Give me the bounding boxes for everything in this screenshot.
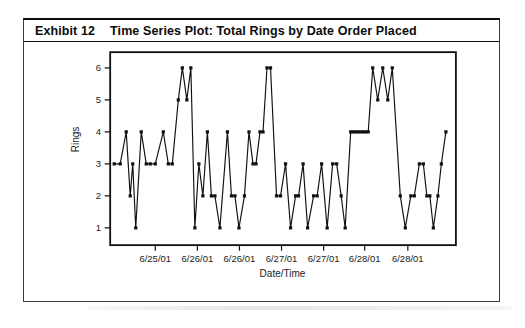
data-point <box>301 162 304 165</box>
y-tick-label: 4 <box>96 126 102 137</box>
data-point <box>436 194 439 197</box>
exhibit-header: Exhibit 12 Time Series Plot: Total Rings… <box>24 20 499 42</box>
data-point <box>425 194 428 197</box>
y-tick-label: 2 <box>96 190 101 201</box>
y-tick-label: 3 <box>96 158 101 169</box>
data-point <box>162 130 165 133</box>
data-point <box>422 162 425 165</box>
data-point <box>306 226 309 229</box>
data-point <box>193 226 196 229</box>
data-point <box>206 130 209 133</box>
data-point <box>125 130 128 133</box>
x-tick-label: 6/27/01 <box>266 253 298 264</box>
data-point <box>331 162 334 165</box>
data-point <box>418 162 421 165</box>
data-point <box>154 162 157 165</box>
x-tick-label: 6/26/01 <box>181 253 213 264</box>
data-point <box>261 130 264 133</box>
data-point <box>399 194 402 197</box>
data-point <box>269 66 272 69</box>
data-point <box>197 162 200 165</box>
data-point <box>404 226 407 229</box>
data-point <box>386 98 389 101</box>
x-tick-label: 6/28/01 <box>349 253 381 264</box>
x-axis-label: Date/Time <box>110 268 455 279</box>
y-tick-label: 1 <box>96 222 101 233</box>
data-point <box>226 130 229 133</box>
data-point <box>316 194 319 197</box>
data-point <box>409 194 412 197</box>
data-point <box>428 194 431 197</box>
data-point <box>233 194 236 197</box>
data-point <box>326 226 329 229</box>
data-point <box>258 130 261 133</box>
data-point <box>254 162 257 165</box>
data-point <box>284 162 287 165</box>
data-point <box>131 162 134 165</box>
data-point <box>210 194 213 197</box>
data-point <box>344 226 347 229</box>
data-point <box>218 226 221 229</box>
data-point <box>243 194 246 197</box>
data-point <box>230 194 233 197</box>
data-point <box>440 162 443 165</box>
chart-area: 1234566/25/016/26/016/26/016/27/016/27/0… <box>24 42 499 301</box>
data-point <box>376 98 379 101</box>
data-point <box>265 66 268 69</box>
data-point <box>134 226 137 229</box>
exhibit-title: Time Series Plot: Total Rings by Date Or… <box>110 24 417 38</box>
data-point <box>189 66 192 69</box>
data-point <box>145 162 148 165</box>
exhibit-label: Exhibit 12 <box>35 24 95 38</box>
data-point <box>177 98 180 101</box>
y-tick-label: 6 <box>96 62 101 73</box>
data-point <box>185 98 188 101</box>
data-point <box>413 194 416 197</box>
data-point <box>279 194 282 197</box>
data-point <box>237 226 240 229</box>
data-point <box>171 162 174 165</box>
data-point <box>129 194 132 197</box>
x-tick-label: 6/28/01 <box>392 253 424 264</box>
y-axis-label: Rings <box>70 119 81 161</box>
data-point <box>140 130 143 133</box>
data-point <box>312 194 315 197</box>
data-point <box>391 66 394 69</box>
data-point <box>444 130 447 133</box>
data-point <box>320 162 323 165</box>
y-tick-label: 5 <box>96 94 101 105</box>
time-series-chart: 1234566/25/016/26/016/26/016/27/016/27/0… <box>24 42 499 301</box>
data-point <box>297 194 300 197</box>
data-point <box>381 66 384 69</box>
data-point <box>432 226 435 229</box>
data-point <box>247 130 250 133</box>
data-point <box>289 226 292 229</box>
x-tick-label: 6/25/01 <box>139 253 171 264</box>
data-point <box>251 162 254 165</box>
data-point <box>167 162 170 165</box>
data-point <box>275 194 278 197</box>
exhibit-box: Exhibit 12 Time Series Plot: Total Rings… <box>23 18 500 302</box>
data-point <box>201 194 204 197</box>
data-point <box>119 162 122 165</box>
x-tick-label: 6/26/01 <box>224 253 256 264</box>
data-point <box>113 162 116 165</box>
scan-artifact <box>88 306 512 310</box>
data-point <box>149 162 152 165</box>
data-point <box>340 194 343 197</box>
data-point <box>371 66 374 69</box>
data-point <box>213 194 216 197</box>
data-point <box>294 194 297 197</box>
data-point <box>181 66 184 69</box>
data-point <box>335 162 338 165</box>
data-point <box>367 130 370 133</box>
x-tick-label: 6/27/01 <box>308 253 340 264</box>
